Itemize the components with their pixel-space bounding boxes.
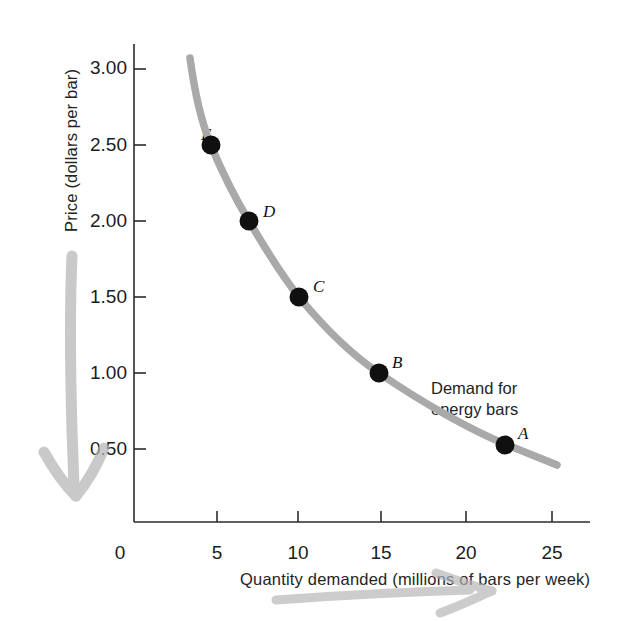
data-point-A[interactable] bbox=[496, 436, 515, 455]
data-point-E[interactable] bbox=[202, 136, 221, 155]
x-axis-ticks bbox=[217, 511, 552, 522]
demand-curve-figure: Price (dollars per bar) 3.00 2.50 2.00 1… bbox=[0, 0, 638, 622]
demand-curve bbox=[190, 58, 557, 465]
y-axis-ticks bbox=[134, 69, 146, 449]
data-point-D[interactable] bbox=[240, 212, 259, 231]
data-point-C[interactable] bbox=[290, 288, 309, 307]
data-point-B[interactable] bbox=[370, 364, 389, 383]
quantity-direction-arrow-icon bbox=[276, 573, 492, 613]
chart-canvas bbox=[0, 0, 638, 622]
data-points bbox=[202, 136, 515, 455]
price-direction-arrow-icon bbox=[44, 256, 104, 496]
